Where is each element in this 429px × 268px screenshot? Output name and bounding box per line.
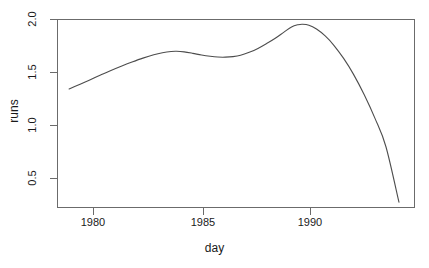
y-tick-label-2.0: 2.0: [26, 4, 38, 34]
x-tick-mark-1990: [310, 208, 311, 215]
plot-area: [57, 19, 415, 208]
x-tick-mark-1980: [93, 208, 94, 215]
chart-container: 2.0 1.5 1.0 0.5 1980 1985 1990 runs day: [0, 0, 429, 268]
y-tick-label-0.5: 0.5: [26, 163, 38, 193]
x-axis-label: day: [0, 241, 429, 255]
y-tick-mark-0.5: [50, 178, 57, 179]
y-tick-mark-2.0: [50, 19, 57, 20]
x-tick-label-1985: 1985: [179, 216, 227, 228]
y-tick-mark-1.5: [50, 72, 57, 73]
y-axis-label: runs: [7, 87, 21, 135]
y-tick-label-1.5: 1.5: [26, 57, 38, 87]
x-tick-label-1990: 1990: [286, 216, 334, 228]
x-tick-mark-1985: [203, 208, 204, 215]
y-tick-mark-1.0: [50, 125, 57, 126]
x-tick-label-1980: 1980: [69, 216, 117, 228]
y-tick-label-1.0: 1.0: [26, 110, 38, 140]
